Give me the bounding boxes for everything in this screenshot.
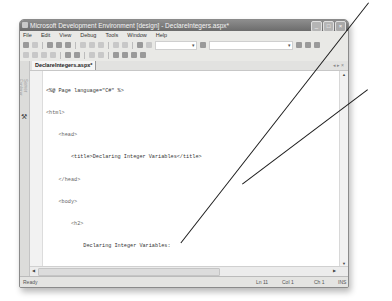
undo-icon[interactable] xyxy=(113,42,119,48)
paste-icon[interactable] xyxy=(98,42,104,48)
start-debug-icon[interactable] xyxy=(137,42,143,48)
tab-controls: ◂▸× xyxy=(333,61,345,70)
toolbar-separator xyxy=(84,52,85,59)
editor-gutter xyxy=(30,71,43,267)
server-explorer-tab[interactable]: Server Explorer xyxy=(21,79,28,109)
close-tab-icon[interactable]: × xyxy=(341,62,345,68)
list-members-icon[interactable] xyxy=(23,52,29,58)
solution-explorer-icon[interactable] xyxy=(296,42,302,48)
menu-edit[interactable]: Edit xyxy=(41,31,50,40)
solution-config-combo[interactable]: ▾ xyxy=(155,41,197,50)
scroll-right-arrow-icon[interactable]: ▶ xyxy=(333,267,336,275)
status-mode: INS xyxy=(338,277,346,287)
code-line: <body> xyxy=(46,199,338,206)
properties-icon[interactable] xyxy=(305,42,311,48)
menu-help[interactable]: Help xyxy=(156,31,167,40)
open-file-icon[interactable] xyxy=(47,42,53,48)
code-line: Declaring Integer Variables: xyxy=(46,243,338,250)
scroll-up-icon[interactable]: ▲ xyxy=(340,71,348,78)
menu-debug[interactable]: Debug xyxy=(80,31,96,40)
code-line: <html> xyxy=(46,110,338,117)
toolbar-separator xyxy=(108,52,109,59)
add-item-icon[interactable] xyxy=(32,42,38,48)
save-all-icon[interactable] xyxy=(65,42,71,48)
toolbox-icon[interactable]: ⚒ xyxy=(21,113,27,121)
left-dock-sidebar: Server Explorer ⚒ xyxy=(20,61,30,277)
title-bar[interactable]: Microsoft Development Environment [desig… xyxy=(20,20,348,31)
quick-info-icon[interactable] xyxy=(41,52,47,58)
cut-icon[interactable] xyxy=(80,42,86,48)
text-editor-toolbar xyxy=(20,50,348,60)
complete-word-icon[interactable] xyxy=(50,52,56,58)
solution-config-icon[interactable] xyxy=(146,42,152,48)
status-line: Ln 11 xyxy=(256,277,268,287)
code-line: <head> xyxy=(46,132,338,139)
close-button[interactable]: × xyxy=(335,21,346,31)
ide-window: Microsoft Development Environment [desig… xyxy=(19,19,349,288)
toggle-bookmark-icon[interactable] xyxy=(113,52,119,58)
code-line: </head> xyxy=(46,177,338,184)
status-col: Col 1 xyxy=(282,277,294,287)
clear-bookmarks-icon[interactable] xyxy=(140,52,146,58)
chevron-down-icon: ▾ xyxy=(192,42,195,49)
toolbar-separator xyxy=(108,42,109,49)
increase-indent-icon[interactable] xyxy=(74,52,80,58)
copy-icon[interactable] xyxy=(89,42,95,48)
vertical-scrollbar[interactable]: ▲ ▼ xyxy=(339,71,348,267)
decrease-indent-icon[interactable] xyxy=(65,52,71,58)
scroll-left-arrow-icon[interactable]: ◀ xyxy=(32,267,35,275)
next-bookmark-icon[interactable] xyxy=(122,52,128,58)
comment-icon[interactable] xyxy=(89,52,95,58)
menu-file[interactable]: File xyxy=(23,31,32,40)
redo-icon[interactable] xyxy=(122,42,128,48)
uncomment-icon[interactable] xyxy=(98,52,104,58)
toolbox-toolbar-icon[interactable] xyxy=(314,42,320,48)
save-icon[interactable] xyxy=(56,42,62,48)
menu-bar: File Edit View Debug Tools Window Help xyxy=(20,31,348,40)
toolbar-separator xyxy=(60,52,61,59)
horizontal-scroll-thumb[interactable] xyxy=(38,268,220,276)
status-bar: Ready Ln 11 Col 1 Ch 1 INS xyxy=(20,276,348,287)
status-ready: Ready xyxy=(23,277,37,287)
window-controls: _ □ × xyxy=(311,21,346,31)
status-ch: Ch 1 xyxy=(314,277,325,287)
maximize-button[interactable]: □ xyxy=(323,21,334,31)
tab-declareintegers[interactable]: DeclareIntegers.aspx* xyxy=(32,61,96,70)
document-tab-bar: DeclareIntegers.aspx* ◂▸× xyxy=(30,61,348,71)
toolbar-separator xyxy=(42,42,43,49)
code-line: <%@ Page language="C#" %> xyxy=(46,88,338,95)
menu-window[interactable]: Window xyxy=(127,31,147,40)
standard-toolbar: ▾ ▾ xyxy=(20,40,348,50)
find-icon[interactable] xyxy=(200,42,206,48)
app-icon xyxy=(22,22,28,28)
menu-view[interactable]: View xyxy=(59,31,71,40)
code-line: <title>Declaring Integer Variables</titl… xyxy=(46,154,338,161)
toolbar-separator xyxy=(132,42,133,49)
find-combo[interactable]: ▾ xyxy=(209,41,293,50)
minimize-button[interactable]: _ xyxy=(311,21,322,31)
new-project-icon[interactable] xyxy=(23,42,29,48)
menu-tools[interactable]: Tools xyxy=(105,31,118,40)
code-text[interactable]: <%@ Page language="C#" %> <html> <head> … xyxy=(46,73,338,288)
code-editor[interactable]: <%@ Page language="C#" %> <html> <head> … xyxy=(30,71,348,267)
chevron-down-icon: ▾ xyxy=(288,42,291,49)
parameter-info-icon[interactable] xyxy=(32,52,38,58)
window-title: Microsoft Development Environment [desig… xyxy=(30,22,229,29)
previous-bookmark-icon[interactable] xyxy=(131,52,137,58)
toolbar-separator xyxy=(75,42,76,49)
